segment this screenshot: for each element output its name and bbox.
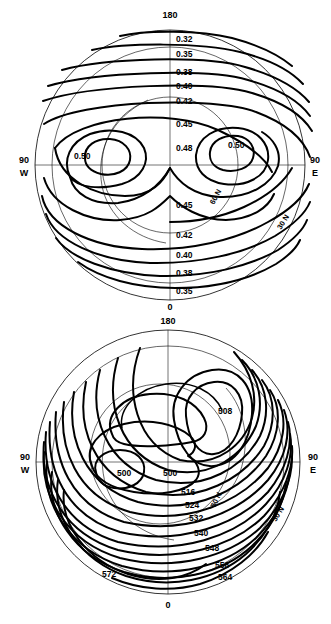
contour-label-500-center: 500 bbox=[117, 468, 131, 478]
azimuth-label-90e-dir: E bbox=[312, 168, 318, 178]
contour-label-0p35-lower: 0.35 bbox=[176, 286, 193, 296]
azimuth-label-90e-num: 90 bbox=[310, 155, 320, 165]
contour-label-0p42-upper: 0.42 bbox=[176, 96, 193, 106]
contour-label-516: 516 bbox=[181, 487, 195, 497]
azimuth-label-90e-num: 90 bbox=[308, 452, 318, 462]
contour-label-0p40-lower: 0.40 bbox=[176, 250, 193, 260]
azimuth-label-90w-num: 90 bbox=[20, 452, 30, 462]
azimuth-label-90e-dir: E bbox=[310, 465, 316, 475]
contour-516 bbox=[50, 422, 290, 536]
azimuth-label-180: 180 bbox=[162, 10, 177, 20]
lat-label-30n: 30 N bbox=[270, 505, 286, 523]
contour-label-0p40-upper: 0.40 bbox=[176, 81, 193, 91]
contour-label-0p32: 0.32 bbox=[176, 34, 193, 44]
contour-label-max-left: 0.50 bbox=[74, 151, 91, 161]
contour-label-572: 572 bbox=[102, 569, 116, 579]
panel-top-contour-map: 180 0 90 W 90 E 0.32 0.35 0.38 0.40 0.42… bbox=[0, 0, 331, 312]
contour-556 bbox=[51, 472, 286, 578]
contour-label-0p48-upper: 0.48 bbox=[176, 143, 193, 153]
azimuth-label-90w-dir: W bbox=[20, 168, 29, 178]
contour-label-500-ridge: 500 bbox=[163, 468, 177, 478]
azimuth-label-0: 0 bbox=[167, 302, 172, 312]
azimuth-label-0: 0 bbox=[165, 600, 170, 610]
azimuth-label-90w-dir: W bbox=[21, 465, 30, 475]
azimuth-label-180: 180 bbox=[160, 316, 175, 326]
contour-label-0p38-lower: 0.38 bbox=[176, 268, 193, 278]
contour-label-0p35-upper: 0.35 bbox=[176, 49, 193, 59]
figure-two-polar-contour-maps: 180 0 90 W 90 E 0.32 0.35 0.38 0.40 0.42… bbox=[0, 0, 331, 624]
contour-label-max-right: 0.50 bbox=[228, 140, 245, 150]
contour-label-0p45-upper: 0.45 bbox=[176, 119, 193, 129]
contour-label-0p38-upper: 0.38 bbox=[176, 67, 193, 77]
contour-label-524: 524 bbox=[185, 500, 199, 510]
contour-0p50-max-left-inner bbox=[85, 139, 130, 175]
contour-label-508: 508 bbox=[218, 406, 232, 416]
contour-label-0p42-lower: 0.42 bbox=[176, 230, 193, 240]
panel-bottom-contour-map: 180 0 90 W 90 E 508 500 500 516 524 532 … bbox=[0, 312, 331, 624]
contour-label-540: 540 bbox=[194, 528, 208, 538]
contour-label-0p45-lower: 0.45 bbox=[176, 200, 193, 210]
azimuth-label-90w-num: 90 bbox=[19, 155, 29, 165]
contour-label-532: 532 bbox=[189, 513, 203, 523]
contour-label-548: 548 bbox=[205, 543, 219, 553]
contour-label-556: 556 bbox=[215, 560, 229, 570]
contour-label-564: 564 bbox=[218, 572, 232, 582]
